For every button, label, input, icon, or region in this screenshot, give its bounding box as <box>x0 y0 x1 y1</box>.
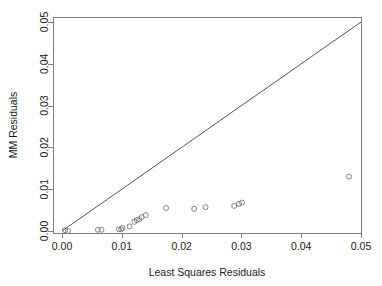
y-tick-label: 0.01 <box>38 179 50 200</box>
data-point-marker <box>239 200 244 205</box>
y-tick-label: 0.00 <box>38 221 50 242</box>
x-tick-label: 0.05 <box>351 240 372 252</box>
data-point-marker <box>347 174 352 179</box>
x-tick-label: 0.01 <box>112 240 133 252</box>
x-tick-label: 0.03 <box>231 240 252 252</box>
plot-frame <box>54 18 362 234</box>
data-point-marker <box>143 213 148 218</box>
y-axis-title: MM Residuals <box>7 92 19 159</box>
data-point-marker <box>203 205 208 210</box>
y-tick-label: 0.02 <box>38 137 50 158</box>
x-tick-label: 0.00 <box>52 240 73 252</box>
x-axis-title: Least Squares Residuals <box>149 266 266 278</box>
data-point-marker <box>232 203 237 208</box>
data-point-marker <box>99 227 104 232</box>
data-point-marker <box>164 206 169 211</box>
scatter-plot-figure: 0.000.010.020.030.040.050.000.010.020.03… <box>0 0 382 286</box>
x-tick-label: 0.04 <box>291 240 312 252</box>
data-point-marker <box>237 201 242 206</box>
y-tick-label: 0.03 <box>38 95 50 116</box>
data-point-marker <box>65 229 70 234</box>
chart-canvas: 0.000.010.020.030.040.050.000.010.020.03… <box>0 0 382 286</box>
data-point-marker <box>192 206 197 211</box>
y-tick-label: 0.04 <box>38 53 50 74</box>
y-tick-label: 0.05 <box>38 12 50 33</box>
data-point-marker <box>127 224 132 229</box>
x-tick-label: 0.02 <box>171 240 192 252</box>
identity-reference-line <box>62 22 361 231</box>
